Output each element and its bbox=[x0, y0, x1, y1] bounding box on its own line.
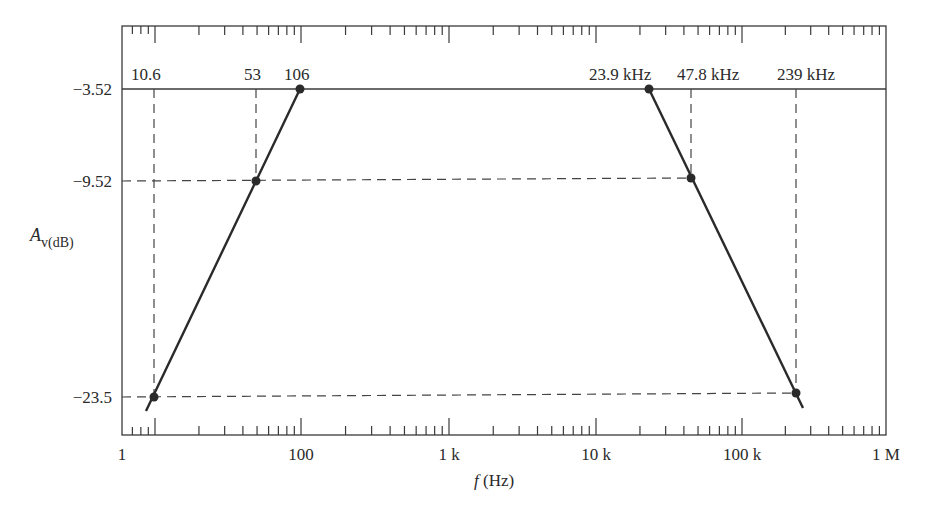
x-tick-label: 1 M bbox=[872, 445, 900, 464]
x-tick-label: 10 k bbox=[581, 445, 611, 464]
data-point bbox=[296, 85, 305, 94]
data-point bbox=[150, 393, 159, 402]
axis-ticks bbox=[132, 26, 879, 435]
y-tick-label: −23.5 bbox=[73, 388, 112, 407]
x-axis-title: f (Hz) bbox=[474, 471, 514, 490]
frequency-label: 10.6 bbox=[131, 65, 161, 84]
x-tick-labels: 11001 k10 k100 k1 M bbox=[118, 445, 900, 464]
y-axis-title: Av(dB) bbox=[29, 225, 74, 251]
data-point bbox=[687, 174, 696, 183]
plot-frame bbox=[122, 26, 886, 435]
data-point bbox=[792, 389, 801, 398]
data-point bbox=[645, 85, 654, 94]
y-tick-label: −3.52 bbox=[73, 80, 112, 99]
bode-plot: 10.65310623.9 kHz47.8 kHz239 kHz −3.52−9… bbox=[0, 0, 946, 520]
minus-9-52-dashed-line bbox=[122, 178, 691, 181]
frequency-label: 23.9 kHz bbox=[589, 65, 652, 84]
y-axis-title-sub: v(dB) bbox=[41, 235, 74, 251]
y-tick-labels: −3.52−9.52−23.5 bbox=[73, 80, 112, 407]
low-frequency-asymptote bbox=[146, 89, 300, 411]
x-axis-title-unit: (Hz) bbox=[479, 471, 514, 490]
data-point bbox=[252, 177, 261, 186]
frequency-label: 47.8 kHz bbox=[677, 65, 740, 84]
x-tick-label: 100 k bbox=[723, 445, 762, 464]
x-tick-label: 100 bbox=[288, 445, 314, 464]
frequency-label: 53 bbox=[244, 65, 261, 84]
x-tick-label: 1 k bbox=[438, 445, 460, 464]
frequency-annotations: 10.65310623.9 kHz47.8 kHz239 kHz bbox=[131, 65, 836, 84]
minus-23-5-dashed-line bbox=[122, 393, 796, 397]
high-frequency-asymptote bbox=[649, 89, 803, 408]
frequency-label: 106 bbox=[284, 65, 310, 84]
data-points bbox=[150, 85, 801, 402]
x-tick-label: 1 bbox=[118, 445, 127, 464]
y-tick-label: −9.52 bbox=[73, 172, 112, 191]
frequency-label: 239 kHz bbox=[777, 65, 836, 84]
